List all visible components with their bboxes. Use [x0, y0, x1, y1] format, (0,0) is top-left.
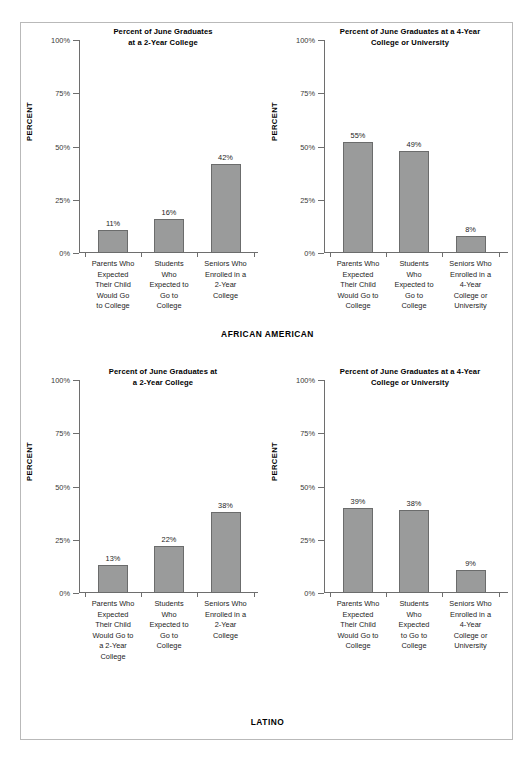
x-axis-tick [197, 253, 198, 257]
plot-area: 0%25%50%75%100%13%22%38% [79, 380, 254, 593]
y-axis-tick [318, 380, 324, 381]
plot-area: 0%25%50%75%100%39%38%9% [324, 380, 504, 593]
bar[interactable] [343, 142, 373, 253]
bar-slot: 55% [330, 40, 386, 253]
bar-slot: 49% [386, 40, 442, 253]
bar[interactable] [399, 510, 429, 593]
bar-slot: 11% [85, 40, 141, 253]
category-label-line: Enrolled in a [436, 610, 505, 621]
bar-value-label: 9% [465, 559, 476, 568]
y-axis-tick-label: 100% [51, 376, 70, 385]
bar[interactable] [154, 219, 184, 253]
chart-panel: Percent of June Graduates at a 4-YearCol… [268, 23, 514, 323]
plot-area: 0%25%50%75%100%55%49%8% [324, 40, 504, 253]
bar-slot: 38% [197, 380, 254, 593]
chart-row: Percent of June Graduatesat a 2-Year Col… [21, 23, 514, 323]
bar-slot: 22% [141, 380, 197, 593]
bar[interactable] [399, 151, 429, 253]
bar-slot: 38% [386, 380, 442, 593]
x-axis-tick [197, 593, 198, 597]
y-axis-title: PERCENT [25, 442, 34, 481]
y-axis-tick-label: 100% [296, 36, 315, 45]
category-label-line: Seniors Who [191, 259, 260, 270]
category-label-line: Enrolled in a [191, 270, 260, 281]
category-label-line: Enrolled in a [436, 270, 505, 281]
y-axis-title: PERCENT [270, 442, 279, 481]
x-axis-tick [85, 593, 86, 597]
y-axis-tick [73, 487, 79, 488]
y-axis-tick-label: 75% [55, 429, 70, 438]
x-axis-tick [386, 253, 387, 257]
bar[interactable] [211, 164, 241, 253]
category-label-line: College [135, 301, 203, 312]
x-axis-tick [442, 253, 443, 257]
y-axis-tick [73, 540, 79, 541]
bar-value-label: 55% [351, 131, 366, 140]
y-axis-tick [73, 433, 79, 434]
category-label-line: College [191, 291, 260, 302]
bar[interactable] [456, 236, 486, 253]
bar-value-label: 8% [465, 225, 476, 234]
chart-group-latino: Percent of June Graduates ata 2-Year Col… [21, 363, 514, 739]
group-label-latino: LATINO [21, 717, 514, 727]
y-axis-tick [73, 200, 79, 201]
category-label-line: Seniors Who [436, 259, 505, 270]
y-axis-tick [318, 200, 324, 201]
bar-value-label: 16% [162, 208, 177, 217]
x-axis-category-label: Seniors WhoEnrolled in a4-YearCollege or… [436, 599, 505, 652]
y-axis-tick-label: 50% [55, 142, 70, 151]
bar[interactable] [343, 508, 373, 593]
bar[interactable] [211, 512, 241, 593]
y-axis-tick-label: 75% [55, 89, 70, 98]
bar[interactable] [456, 570, 486, 593]
y-axis-tick-label: 25% [55, 535, 70, 544]
y-axis-line [324, 40, 325, 253]
y-axis-tick [318, 253, 324, 254]
bar-slot: 39% [330, 380, 386, 593]
y-axis-tick [73, 380, 79, 381]
category-label-line: 4-Year [436, 620, 505, 631]
category-label-line: Seniors Who [436, 599, 505, 610]
x-axis-tick [141, 593, 142, 597]
bar[interactable] [154, 546, 184, 593]
y-axis-line [79, 380, 80, 593]
bar-value-label: 38% [407, 499, 422, 508]
y-axis-tick [73, 40, 79, 41]
bar-value-label: 22% [162, 535, 177, 544]
y-axis-tick [318, 40, 324, 41]
y-axis-tick-label: 25% [55, 195, 70, 204]
bar[interactable] [98, 230, 128, 253]
chart-panel: Percent of June Graduates at a 4-YearCol… [268, 363, 514, 663]
x-axis-tick [499, 253, 500, 257]
y-axis-tick-label: 25% [300, 195, 315, 204]
category-label-line: College [191, 631, 260, 642]
chart-title-line: Percent of June Graduates at a 4-Year [312, 27, 508, 38]
x-axis-tick [442, 593, 443, 597]
y-axis-tick [318, 487, 324, 488]
category-label-line: College or [436, 291, 505, 302]
group-label-african-american: AFRICAN AMERICAN [21, 329, 514, 339]
y-axis-tick-label: 25% [300, 535, 315, 544]
x-axis-tick [330, 253, 331, 257]
y-axis-tick-label: 50% [300, 482, 315, 491]
figure-frame: Percent of June Graduatesat a 2-Year Col… [20, 22, 513, 740]
bar-slot: 9% [442, 380, 499, 593]
x-axis-tick [85, 253, 86, 257]
chart-group-african-american: Percent of June Graduatesat a 2-Year Col… [21, 23, 514, 363]
bar-slot: 8% [442, 40, 499, 253]
chart-title-line: Percent of June Graduates [65, 27, 261, 38]
bar[interactable] [98, 565, 128, 593]
bar-slot: 16% [141, 40, 197, 253]
bar-value-label: 11% [106, 219, 120, 228]
y-axis-line [324, 380, 325, 593]
y-axis-tick-label: 100% [51, 36, 70, 45]
y-axis-tick-label: 0% [59, 589, 70, 598]
y-axis-tick-label: 0% [304, 589, 315, 598]
y-axis-tick-label: 50% [300, 142, 315, 151]
x-axis-tick [330, 593, 331, 597]
y-axis-tick [318, 147, 324, 148]
y-axis-tick-label: 100% [296, 376, 315, 385]
y-axis-tick [73, 93, 79, 94]
y-axis-tick-label: 0% [59, 249, 70, 258]
category-label-line: Enrolled in a [191, 610, 260, 621]
